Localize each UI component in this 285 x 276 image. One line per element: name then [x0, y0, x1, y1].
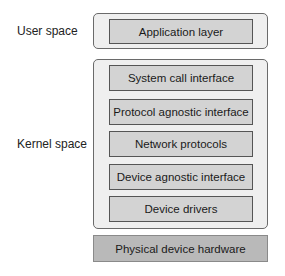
network-protocols-box: Network protocols [109, 131, 253, 157]
user-space-label: User space [17, 24, 78, 38]
physical-device-hardware-box: Physical device hardware [93, 235, 268, 262]
system-call-interface-box: System call interface [109, 65, 253, 91]
protocol-agnostic-interface-box: Protocol agnostic interface [109, 99, 253, 125]
device-drivers-box: Device drivers [109, 196, 253, 222]
application-layer-box: Application layer [109, 19, 253, 44]
kernel-space-label: Kernel space [17, 137, 87, 151]
device-agnostic-interface-box: Device agnostic interface [109, 164, 253, 190]
